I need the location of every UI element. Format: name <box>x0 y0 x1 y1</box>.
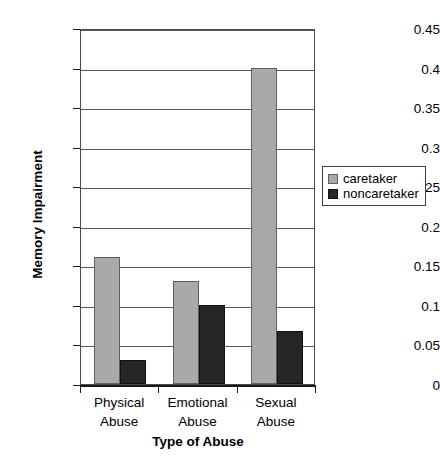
gridline <box>81 70 314 71</box>
legend-item-noncaretaker: noncaretaker <box>328 186 419 201</box>
gridline <box>81 188 314 189</box>
legend-label-noncaretaker: noncaretaker <box>343 186 419 201</box>
bar-noncaretaker-sexual-abuse <box>277 331 303 384</box>
x-axis-tick <box>315 386 316 393</box>
gridline <box>81 228 314 229</box>
gridline <box>81 149 314 150</box>
legend-item-caretaker: caretaker <box>328 171 419 186</box>
y-axis-tick-label: 0.15 <box>372 259 440 274</box>
bar-chart: Memory Impairment 00.050.10.150.20.250.3… <box>0 0 440 465</box>
legend-swatch-caretaker <box>328 174 338 184</box>
x-axis-tick <box>237 386 238 393</box>
plot-area <box>80 29 315 385</box>
y-axis-tick-label: 0.2 <box>372 219 440 234</box>
gridline <box>81 30 314 31</box>
gridline <box>81 109 314 110</box>
x-axis-category-line: Sexual <box>228 393 324 412</box>
x-axis-category-line: Abuse <box>228 412 324 431</box>
x-axis-line <box>80 385 316 387</box>
x-axis-category-sexual-abuse: SexualAbuse <box>228 393 324 431</box>
bar-caretaker-sexual-abuse <box>251 68 277 384</box>
legend: caretakernoncaretaker <box>322 166 426 206</box>
y-axis-tick-label: 0.3 <box>372 140 440 155</box>
y-axis-tick-label: 0.35 <box>372 101 440 116</box>
y-axis-tick-label: 0.4 <box>372 61 440 76</box>
y-axis-tick-label: 0.1 <box>372 298 440 313</box>
bar-caretaker-physical-abuse <box>94 257 120 384</box>
y-axis-title: Memory Impairment <box>30 130 45 300</box>
bar-noncaretaker-emotional-abuse <box>199 305 225 384</box>
y-axis-tick-label: 0 <box>372 378 440 393</box>
x-axis-title: Type of Abuse <box>80 434 316 449</box>
bar-caretaker-emotional-abuse <box>173 281 199 384</box>
legend-swatch-noncaretaker <box>328 189 338 199</box>
x-axis-tick <box>158 386 159 393</box>
x-axis-tick <box>80 386 81 393</box>
bar-noncaretaker-physical-abuse <box>120 360 146 384</box>
legend-label-caretaker: caretaker <box>343 171 397 186</box>
y-axis-tick-label: 0.05 <box>372 338 440 353</box>
y-axis-tick-label: 0.45 <box>372 22 440 37</box>
